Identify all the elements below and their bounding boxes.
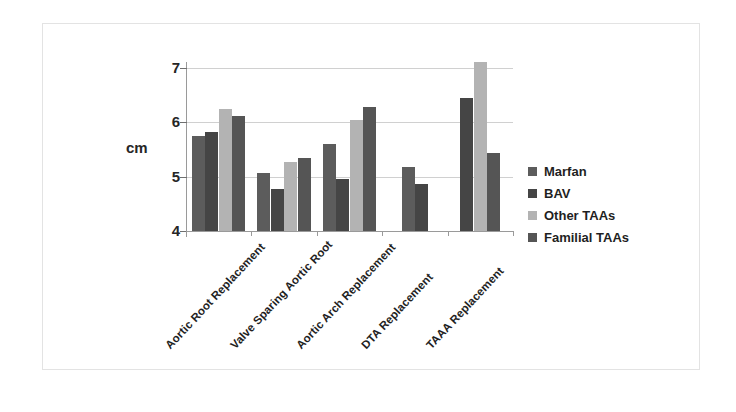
x-tick-mark xyxy=(382,231,383,236)
legend-swatch-icon xyxy=(528,233,537,242)
bar-group xyxy=(186,68,513,231)
plot-area xyxy=(186,68,513,231)
x-tick-mark xyxy=(186,231,187,236)
legend-swatch-icon xyxy=(528,189,537,198)
legend-label: Marfan xyxy=(544,164,587,179)
legend-swatch-icon xyxy=(528,167,537,176)
y-axis-title: cm xyxy=(126,139,148,156)
legend-item[interactable]: Familial TAAs xyxy=(528,226,688,248)
legend-item[interactable]: BAV xyxy=(528,182,688,204)
y-tick-label: 6 xyxy=(152,114,180,129)
legend-item[interactable]: Marfan xyxy=(528,160,688,182)
legend-swatch-icon xyxy=(528,211,537,220)
x-tick-mark xyxy=(448,231,449,236)
x-tick-mark xyxy=(251,231,252,236)
bar xyxy=(460,98,473,231)
chart-legend: MarfanBAVOther TAAsFamilial TAAs xyxy=(528,160,688,248)
x-tick-mark xyxy=(513,231,514,236)
x-tick-mark xyxy=(317,231,318,236)
x-axis-line xyxy=(186,231,513,232)
y-axis-tick-labels: 4567 xyxy=(140,0,180,412)
y-tick-label: 4 xyxy=(152,223,180,238)
legend-label: BAV xyxy=(544,186,570,201)
legend-label: Other TAAs xyxy=(544,208,615,223)
y-tick-label: 7 xyxy=(152,60,180,75)
bar xyxy=(487,153,500,231)
y-tick-label: 5 xyxy=(152,169,180,184)
bar xyxy=(474,62,487,231)
legend-label: Familial TAAs xyxy=(544,230,629,245)
legend-item[interactable]: Other TAAs xyxy=(528,204,688,226)
